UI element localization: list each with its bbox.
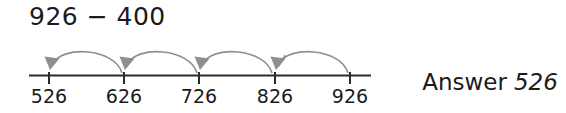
jump-arc-726-to-626	[128, 52, 197, 73]
tick-label-626: 626	[106, 85, 142, 107]
tick-label-826: 826	[257, 85, 293, 107]
answer-label: Answer	[422, 69, 507, 95]
jump-arrowhead-filled-626	[120, 57, 135, 71]
jump-arc-626-to-526	[53, 52, 122, 73]
worksheet-figure: 926 − 400 52	[0, 0, 566, 113]
tick-label-726: 726	[181, 85, 217, 107]
answer-block: Answer526	[393, 40, 558, 113]
jump-arrowhead-filled-826	[271, 57, 286, 71]
jump-arrowhead-filled-726	[195, 57, 210, 71]
answer-value: 526	[514, 69, 558, 95]
jump-arc-926-to-826	[279, 52, 348, 73]
jump-arc-826-to-726	[203, 52, 272, 73]
tick-label-526: 526	[31, 85, 67, 107]
tick-label-926: 926	[332, 85, 368, 107]
jump-arc-group	[45, 52, 349, 73]
number-line-ticks	[49, 72, 350, 84]
jump-arrowhead-filled-526	[45, 57, 60, 71]
